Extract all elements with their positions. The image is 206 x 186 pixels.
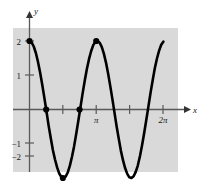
x-tick-label-pi: π: [94, 115, 99, 125]
marked-point: [93, 38, 99, 44]
y-tick-label-neg2: −2: [11, 152, 21, 162]
marked-point: [43, 106, 49, 112]
plot-background-panel: [13, 28, 178, 172]
marked-point: [76, 106, 82, 112]
y-tick-label-neg1: −1: [11, 139, 21, 149]
x-tick-label-2pi: 2π: [158, 115, 168, 125]
x-axis-arrowhead: [184, 106, 191, 113]
marked-point: [60, 175, 66, 181]
marked-point: [26, 38, 32, 44]
y-tick-label-1: 1: [17, 71, 22, 81]
y-axis-arrowhead: [26, 11, 33, 18]
cosine-graph-svg: 2 1 −1 −2 π 2π x y: [0, 0, 206, 186]
x-axis-label: x: [192, 105, 197, 115]
y-tick-label-2: 2: [17, 37, 22, 47]
y-axis-label: y: [33, 6, 38, 16]
graph-figure: 2 1 −1 −2 π 2π x y: [0, 0, 206, 186]
